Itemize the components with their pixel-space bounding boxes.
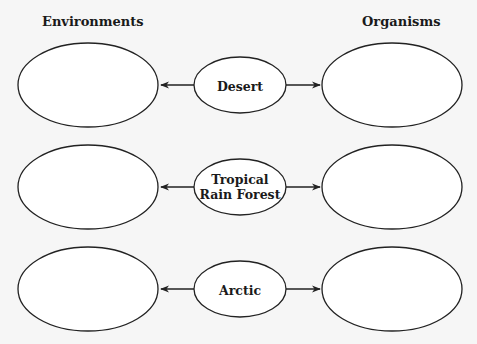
center-label-tropical-line2: Rain Forest	[200, 187, 281, 202]
center-label-tropical-line1: Tropical	[200, 172, 281, 187]
environment-ellipse-tropical[interactable]	[18, 145, 158, 229]
center-label-arctic: Arctic	[219, 283, 261, 298]
environment-ellipse-arctic[interactable]	[18, 247, 158, 331]
environment-ellipse-desert[interactable]	[18, 43, 158, 127]
organism-ellipse-arctic[interactable]	[322, 247, 462, 331]
organism-ellipse-tropical[interactable]	[322, 145, 462, 229]
organism-ellipse-desert[interactable]	[322, 43, 462, 127]
center-label-tropical: Tropical Rain Forest	[200, 172, 281, 202]
center-label-desert: Desert	[217, 79, 263, 94]
